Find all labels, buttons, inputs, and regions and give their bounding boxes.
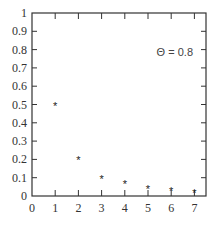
x-tick-label: 7	[191, 201, 197, 215]
data-point: *	[99, 173, 104, 185]
data-point: *	[123, 178, 128, 190]
y-tick-label: 1	[21, 6, 27, 20]
y-tick-label: 0.9	[12, 24, 27, 38]
x-tick-label: 6	[168, 201, 174, 215]
y-tick-label: 0.5	[12, 98, 27, 112]
plot-frame	[32, 13, 206, 196]
theta-annotation: Θ = 0.8	[157, 46, 193, 58]
chart-canvas: 0 1 2 3 4 5 6 7 0 0.1 0.2 0.3 0.4 0.5 0.…	[0, 0, 219, 228]
y-tick-label: 0.6	[12, 79, 27, 93]
x-tick-labels: 0 1 2 3 4 5 6 7	[29, 201, 197, 215]
y-tick-label: 0	[21, 189, 27, 203]
x-ticks	[55, 13, 194, 196]
y-tick-label: 0.3	[12, 134, 27, 148]
y-tick-label: 0.7	[12, 61, 27, 75]
x-tick-label: 3	[99, 201, 105, 215]
y-tick-labels: 0 0.1 0.2 0.3 0.4 0.5 0.6 0.7 0.8 0.9 1	[12, 6, 27, 203]
data-series: * * * * * * *	[53, 100, 197, 200]
data-point: *	[146, 183, 151, 195]
x-tick-label: 4	[122, 201, 128, 215]
x-tick-label: 5	[145, 201, 151, 215]
y-tick-label: 0.4	[12, 116, 27, 130]
x-tick-label: 1	[52, 201, 58, 215]
x-tick-label: 2	[75, 201, 81, 215]
data-point: *	[192, 187, 197, 199]
data-point: *	[169, 185, 174, 197]
x-tick-label: 0	[29, 201, 35, 215]
y-tick-label: 0.8	[12, 43, 27, 57]
y-tick-label: 0.1	[12, 171, 27, 185]
data-point: *	[76, 154, 81, 166]
y-tick-label: 0.2	[12, 152, 27, 166]
data-point: *	[53, 100, 58, 112]
